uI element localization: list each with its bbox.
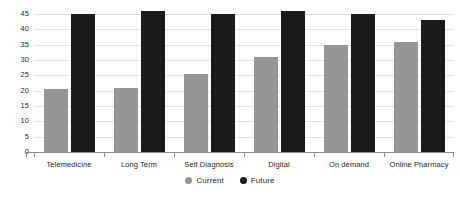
y-axis-tick-label: 10 bbox=[20, 117, 29, 125]
category-axis: TelemedicineLong TermSelf DiagnosisDigit… bbox=[34, 152, 454, 172]
bar-group bbox=[384, 0, 454, 152]
y-axis-tick-label: 15 bbox=[20, 102, 29, 110]
bar-group bbox=[244, 0, 314, 152]
x-axis-origin-tick bbox=[26, 152, 27, 157]
legend-swatch-icon bbox=[185, 177, 192, 184]
x-axis-tick bbox=[314, 152, 315, 157]
bar-chart: 454035302520151050 TelemedicineLong Term… bbox=[0, 0, 460, 198]
y-axis-tick-label: 40 bbox=[20, 25, 29, 33]
category-cell: Digital bbox=[244, 152, 314, 172]
category-cell: Online Pharmacy bbox=[384, 152, 454, 172]
bar-current[interactable] bbox=[394, 42, 418, 152]
y-axis-tick-label: 5 bbox=[25, 133, 29, 141]
chart-legend: CurrentFuture bbox=[0, 176, 460, 185]
x-axis-tick bbox=[244, 152, 245, 157]
legend-label: Current bbox=[196, 176, 223, 185]
x-axis-label: Digital bbox=[268, 160, 290, 172]
legend-item-future[interactable]: Future bbox=[240, 176, 275, 185]
plot-area: 454035302520151050 TelemedicineLong Term… bbox=[0, 0, 460, 160]
category-cell: On demand bbox=[314, 152, 384, 172]
bar-future[interactable] bbox=[351, 14, 375, 152]
bar-group bbox=[174, 0, 244, 152]
x-axis-label: Online Pharmacy bbox=[389, 160, 448, 172]
x-axis-label: Self Diagnosis bbox=[184, 160, 233, 172]
bar-future[interactable] bbox=[71, 14, 95, 152]
x-axis-tick bbox=[104, 152, 105, 157]
bar-current[interactable] bbox=[114, 88, 138, 152]
x-axis-tick bbox=[453, 152, 454, 157]
category-cell: Telemedicine bbox=[34, 152, 104, 172]
y-axis-tick-label: 25 bbox=[20, 71, 29, 79]
x-axis-label: On demand bbox=[329, 160, 369, 172]
category-cell: Long Term bbox=[104, 152, 174, 172]
bar-current[interactable] bbox=[254, 57, 278, 152]
x-axis-label: Long Term bbox=[121, 160, 157, 172]
x-axis-tick bbox=[174, 152, 175, 157]
y-axis-tick-label: 45 bbox=[20, 10, 29, 18]
legend-item-current[interactable]: Current bbox=[185, 176, 223, 185]
legend-label: Future bbox=[251, 176, 275, 185]
y-axis-tick-label: 20 bbox=[20, 87, 29, 95]
y-axis: 454035302520151050 bbox=[0, 0, 34, 160]
bar-future[interactable] bbox=[141, 11, 165, 152]
bar-group bbox=[314, 0, 384, 152]
bar-group bbox=[34, 0, 104, 152]
bar-current[interactable] bbox=[44, 89, 68, 152]
legend-swatch-icon bbox=[240, 177, 247, 184]
bar-future[interactable] bbox=[421, 20, 445, 152]
bar-current[interactable] bbox=[324, 45, 348, 152]
bar-current[interactable] bbox=[184, 74, 208, 152]
category-cell: Self Diagnosis bbox=[174, 152, 244, 172]
x-axis-tick bbox=[384, 152, 385, 157]
bar-future[interactable] bbox=[281, 11, 305, 152]
x-axis-tick bbox=[34, 152, 35, 157]
x-axis-label: Telemedicine bbox=[47, 160, 92, 172]
bar-group bbox=[104, 0, 174, 152]
y-axis-tick-label: 35 bbox=[20, 41, 29, 49]
y-axis-tick-label: 30 bbox=[20, 56, 29, 64]
bar-future[interactable] bbox=[211, 14, 235, 152]
bars-layer bbox=[34, 0, 454, 152]
